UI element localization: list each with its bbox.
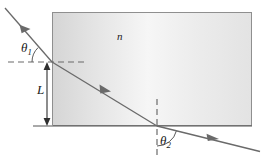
angle-label-theta2: θ2 [160, 134, 171, 147]
length-arrowhead-top [44, 62, 51, 70]
theta1-subscript: 1 [27, 47, 31, 57]
theta2-subscript: 2 [166, 140, 170, 150]
refraction-diagram: θ1 θ2 n L [0, 0, 263, 164]
angle-arc-theta1 [32, 48, 38, 62]
transparent-medium-slab [53, 13, 252, 126]
length-arrowhead-bottom [44, 118, 51, 126]
angle-label-theta1: θ1 [21, 41, 32, 54]
refractive-index-label: n [117, 31, 123, 42]
length-label: L [37, 83, 44, 96]
exit-ray-arrowhead [207, 134, 220, 141]
